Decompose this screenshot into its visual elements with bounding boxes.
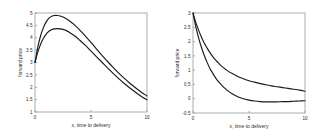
right-ytick-label: 1.5 <box>184 54 191 59</box>
left-y-axis-label: forward price <box>17 48 23 77</box>
right-ytick-label: 1 <box>188 68 191 73</box>
left-ytick-label: 4.5 <box>26 23 33 28</box>
left-ytick-label: 3.5 <box>26 48 33 53</box>
left-ytick-label: 1 <box>30 110 33 115</box>
left-ytick-label: 5 <box>30 11 33 16</box>
left-ytick-label: 4 <box>30 35 33 40</box>
left-ytick-label: 1.5 <box>26 97 33 102</box>
right-xtick-label: 5 <box>248 116 251 121</box>
figure-canvas: 1 1.5 2 2.5 3 3.5 4 4.5 5 0 5 10 x, time… <box>0 0 317 138</box>
right-ytick-label: -0.5 <box>183 111 191 116</box>
right-ytick-label: 2.5 <box>184 25 191 30</box>
left-ytick-label: 2.5 <box>26 73 33 78</box>
left-xtick-label: 10 <box>144 115 150 120</box>
right-plot-panel: -0.5 0 0.5 1 1.5 2 2.5 3 0 5 10 x, time … <box>159 0 317 138</box>
left-xtick-label: 5 <box>90 115 93 120</box>
right-axes-frame <box>193 13 305 113</box>
right-plot-svg: -0.5 0 0.5 1 1.5 2 2.5 3 0 5 10 x, time … <box>159 0 317 138</box>
right-ytick-label: 0 <box>188 96 191 101</box>
right-y-axis-label: forward price <box>174 48 180 77</box>
left-axes-frame <box>35 13 147 112</box>
right-curve-upper <box>193 13 305 91</box>
right-ytick-label: 0.5 <box>184 82 191 87</box>
left-x-axis-label: x, time to delivery <box>72 122 111 128</box>
right-ytick-label: 3 <box>188 11 191 16</box>
left-ytick-label: 2 <box>30 85 33 90</box>
right-ytick-label: 2 <box>188 39 191 44</box>
left-ytick-label: 3 <box>30 60 33 65</box>
left-curve-upper <box>35 15 147 96</box>
left-plot-svg: 1 1.5 2 2.5 3 3.5 4 4.5 5 0 5 10 x, time… <box>0 0 158 138</box>
right-x-axis-label: x, time to delivery <box>230 123 269 129</box>
left-plot-panel: 1 1.5 2 2.5 3 3.5 4 4.5 5 0 5 10 x, time… <box>0 0 158 138</box>
left-xtick-label: 0 <box>34 115 37 120</box>
right-xtick-label: 10 <box>302 116 308 121</box>
right-xtick-label: 0 <box>192 116 195 121</box>
left-curve-lower <box>35 29 147 100</box>
